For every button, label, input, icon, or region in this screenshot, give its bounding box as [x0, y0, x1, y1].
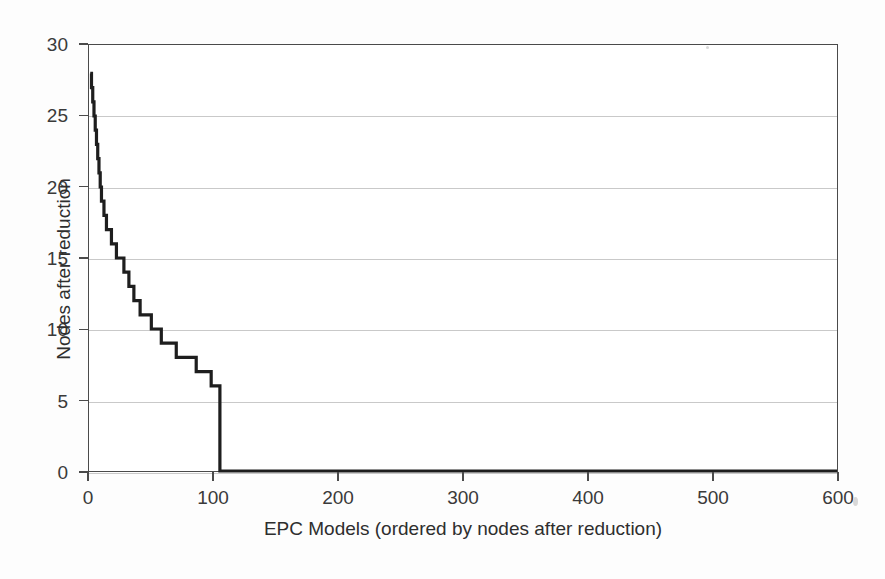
x-tick-label-0: 0 — [53, 488, 123, 507]
data-series-line — [89, 45, 837, 471]
y-tick-mark-10 — [79, 329, 88, 330]
y-tick-mark-5 — [79, 400, 88, 401]
y-tick-mark-25 — [79, 115, 88, 116]
y-tick-mark-20 — [79, 186, 88, 187]
x-tick-mark-400 — [587, 472, 588, 481]
scan-speck — [853, 497, 858, 506]
x-axis-title: EPC Models (ordered by nodes after reduc… — [88, 518, 838, 540]
y-tick-mark-15 — [79, 257, 88, 258]
x-tick-label-100: 100 — [178, 488, 248, 507]
x-tick-label-200: 200 — [303, 488, 373, 507]
x-tick-label-300: 300 — [428, 488, 498, 507]
plot-area — [88, 44, 838, 472]
x-tick-mark-500 — [712, 472, 713, 481]
x-tick-mark-300 — [462, 472, 463, 481]
x-tick-mark-100 — [212, 472, 213, 481]
x-tick-label-500: 500 — [678, 488, 748, 507]
x-tick-mark-600 — [837, 472, 838, 481]
chart-figure: 0510152025300100200300400500600 EPC Mode… — [0, 0, 885, 579]
x-tick-mark-200 — [337, 472, 338, 481]
x-tick-mark-0 — [87, 472, 88, 481]
y-tick-mark-30 — [79, 43, 88, 44]
y-tick-label-30: 30 — [24, 35, 68, 54]
y-axis-title: Nodes after reduction — [53, 119, 75, 419]
x-tick-label-400: 400 — [553, 488, 623, 507]
scan-speck — [706, 46, 709, 49]
y-tick-label-0: 0 — [24, 463, 68, 482]
x-tick-label-600: 600 — [803, 488, 873, 507]
